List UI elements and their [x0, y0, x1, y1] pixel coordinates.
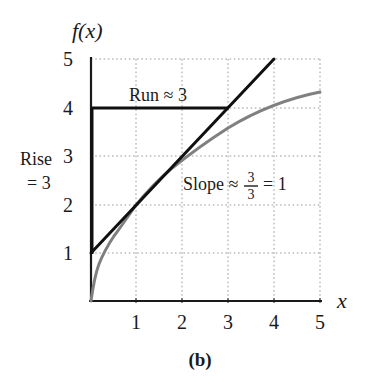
slope-annotation-suffix: = 1: [263, 174, 287, 194]
x-tick-label-3: 3: [223, 311, 233, 333]
x-tick-label-1: 1: [131, 311, 141, 333]
x-tick-label-5: 5: [315, 311, 325, 333]
y-tick-label-4: 4: [63, 97, 73, 119]
y-axis-title: f(x): [72, 18, 103, 43]
slope-fraction-numerator: 3: [248, 170, 255, 185]
slope-annotation-prefix: Slope ≈: [183, 174, 239, 194]
chart-svg: f(x) x 5 4 3 2 1 1 2 3 4 5 Run ≈ 3 Rise …: [0, 0, 372, 380]
x-axis-title: x: [336, 288, 347, 313]
y-tick-label-3: 3: [63, 145, 73, 167]
y-tick-label-5: 5: [63, 48, 73, 70]
y-tick-label-1: 1: [63, 242, 73, 264]
curve-sqrt: [91, 92, 320, 301]
rise-annotation-label-line2: = 3: [27, 173, 51, 193]
slope-fraction-denominator: 3: [248, 187, 255, 202]
x-tick-label-4: 4: [269, 311, 279, 333]
y-tick-label-2: 2: [63, 194, 73, 216]
run-annotation-label: Run ≈ 3: [129, 85, 187, 105]
figure-container: f(x) x 5 4 3 2 1 1 2 3 4 5 Run ≈ 3 Rise …: [0, 0, 372, 380]
x-tick-label-2: 2: [177, 311, 187, 333]
rise-annotation-label-line1: Rise: [20, 149, 52, 169]
slope-annotation: Slope ≈ 3 3 = 1: [183, 170, 287, 202]
figure-caption: (b): [188, 349, 211, 371]
